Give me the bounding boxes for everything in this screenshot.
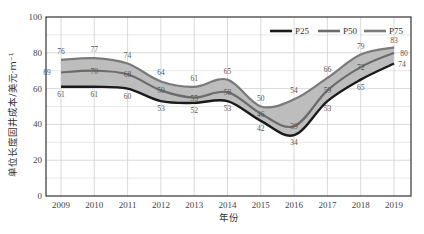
x-tick-label: 2014 — [219, 200, 238, 210]
legend-label-p25: P25 — [295, 26, 310, 36]
data-label-p50: 80 — [400, 49, 408, 58]
data-label-p75: 76 — [57, 47, 65, 56]
data-label-p50: 69 — [43, 68, 51, 77]
x-tick-label: 2019 — [385, 200, 404, 210]
data-label-p25: 42 — [257, 124, 265, 133]
x-tick-label: 2012 — [152, 200, 170, 210]
data-label-p50: 46 — [257, 110, 265, 119]
x-tick-label: 2017 — [318, 200, 337, 210]
data-label-p25: 61 — [91, 90, 99, 99]
data-label-p75: 64 — [157, 68, 165, 77]
data-label-p25: 53 — [224, 104, 232, 113]
x-tick-label: 2018 — [352, 200, 371, 210]
x-tick-label: 2009 — [52, 200, 71, 210]
data-label-p50: 72 — [357, 63, 365, 72]
data-label-p25: 53 — [324, 104, 332, 113]
data-label-p75: 65 — [224, 67, 232, 76]
data-label-p75: 66 — [324, 65, 332, 74]
y-axis-ticks: 020406080100 — [29, 12, 43, 201]
data-label-p50: 39 — [290, 122, 298, 131]
data-label-p25: 53 — [157, 104, 165, 113]
data-label-p50: 59 — [324, 86, 332, 95]
data-label-p75: 79 — [357, 42, 365, 51]
x-tick-label: 2010 — [85, 200, 104, 210]
y-tick-label: 40 — [33, 119, 43, 129]
data-label-p75: 54 — [290, 86, 298, 95]
data-label-p25: 60 — [124, 92, 132, 101]
data-label-p25: 61 — [57, 90, 65, 99]
data-label-p50: 70 — [91, 67, 99, 76]
data-label-p25: 52 — [190, 106, 198, 115]
data-label-p25: 65 — [357, 83, 365, 92]
data-label-p50: 59 — [157, 86, 165, 95]
y-tick-label: 100 — [29, 12, 43, 22]
y-tick-label: 80 — [33, 48, 43, 58]
y-tick-label: 60 — [33, 84, 43, 94]
x-tick-label: 2013 — [185, 200, 204, 210]
data-label-p75: 74 — [124, 51, 132, 60]
data-label-p50: 68 — [124, 70, 132, 79]
data-label-p75: 50 — [257, 94, 265, 103]
data-label-p75: 61 — [190, 74, 198, 83]
data-label-p25: 74 — [398, 60, 406, 69]
data-label-p75: 77 — [91, 45, 99, 54]
x-tick-label: 2016 — [285, 200, 304, 210]
data-label-p25: 34 — [290, 138, 298, 147]
data-label-p75: 83 — [390, 36, 398, 45]
y-tick-label: 20 — [33, 155, 43, 165]
y-axis-title: 单位长度固井成本/美元·m⁻¹ — [7, 52, 18, 176]
x-tick-label: 2011 — [119, 200, 137, 210]
x-axis-title: 年份 — [219, 212, 239, 223]
chart: 020406080100 200920102011201220132014201… — [0, 0, 424, 234]
y-tick-label: 0 — [38, 191, 43, 201]
x-axis-ticks: 2009201020112012201320142015201620172018… — [52, 200, 404, 210]
legend-label-p50: P50 — [343, 26, 358, 36]
data-label-p50: 55 — [190, 94, 198, 103]
data-label-p50: 58 — [224, 88, 232, 97]
x-tick-label: 2015 — [252, 200, 271, 210]
legend-label-p75: P75 — [389, 26, 404, 36]
